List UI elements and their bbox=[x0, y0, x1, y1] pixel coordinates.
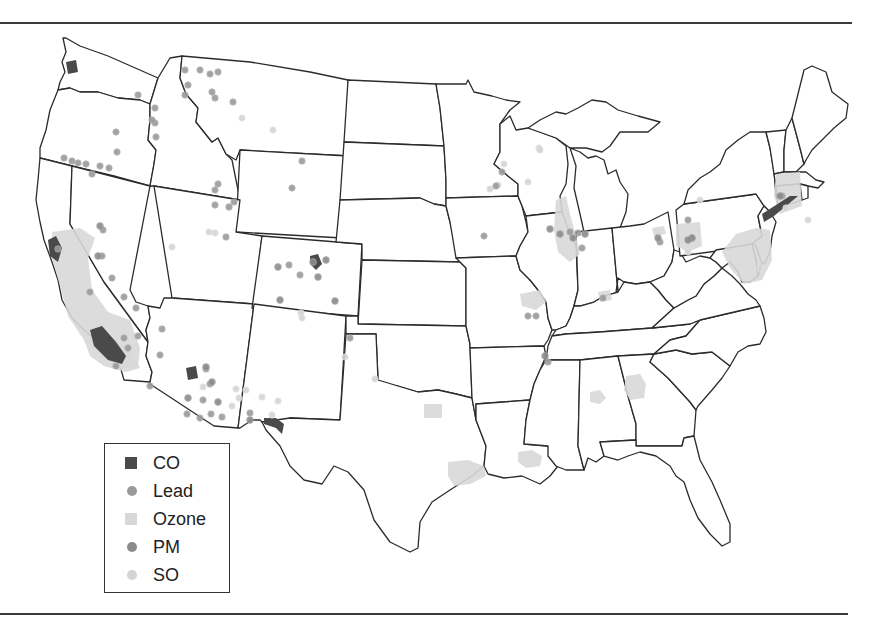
lead-point bbox=[121, 294, 127, 300]
so-point bbox=[501, 161, 507, 167]
so-point bbox=[697, 197, 703, 203]
legend-label-pm: PM bbox=[153, 537, 180, 557]
pm-point bbox=[95, 253, 102, 260]
so-point bbox=[805, 217, 811, 223]
state-iowa bbox=[446, 196, 528, 258]
so-point bbox=[259, 394, 265, 400]
so-point bbox=[212, 230, 218, 236]
pm-point bbox=[547, 226, 554, 233]
pm-point bbox=[777, 193, 784, 200]
lead-point bbox=[135, 333, 141, 339]
pm-point bbox=[203, 364, 210, 371]
so-point bbox=[525, 179, 531, 185]
so-point bbox=[243, 387, 249, 393]
lead-point bbox=[182, 67, 188, 73]
lead-point bbox=[83, 161, 89, 167]
lead-point bbox=[209, 89, 215, 95]
lead-point bbox=[299, 158, 305, 164]
state-new-mexico bbox=[238, 304, 346, 428]
lead-point bbox=[184, 411, 190, 417]
legend-label-so: SO bbox=[153, 565, 179, 585]
state-south-dakota bbox=[340, 142, 446, 206]
lead-point bbox=[207, 71, 213, 77]
lead-point bbox=[185, 82, 191, 88]
lead-point bbox=[125, 345, 131, 351]
state-maine bbox=[792, 66, 848, 164]
pm-point bbox=[542, 353, 549, 360]
lead-point bbox=[685, 217, 691, 223]
so-swatch-icon bbox=[127, 570, 137, 580]
lead-point bbox=[153, 134, 159, 140]
so-point bbox=[206, 229, 212, 235]
lead-swatch-icon bbox=[127, 486, 137, 496]
pm-point bbox=[209, 379, 216, 386]
co-area bbox=[66, 60, 78, 74]
lead-point bbox=[297, 272, 303, 278]
lead-point bbox=[106, 165, 112, 171]
lead-point bbox=[347, 335, 353, 341]
pm-point bbox=[277, 297, 284, 304]
pm-point bbox=[97, 223, 104, 230]
lead-point bbox=[89, 171, 95, 177]
lead-point bbox=[525, 313, 531, 319]
lead-point bbox=[121, 335, 127, 341]
lead-point bbox=[481, 233, 487, 239]
lead-point bbox=[499, 169, 505, 175]
lead-point bbox=[545, 359, 551, 365]
so-point bbox=[537, 147, 543, 153]
lead-point bbox=[533, 313, 539, 319]
lead-point bbox=[113, 363, 119, 369]
lead-point bbox=[493, 183, 499, 189]
pm-point bbox=[655, 235, 662, 242]
lead-point bbox=[109, 275, 115, 281]
lead-point bbox=[197, 67, 203, 73]
legend-label-ozone: Ozone bbox=[153, 509, 206, 529]
so-point bbox=[229, 403, 235, 409]
lead-point bbox=[75, 160, 81, 166]
lead-point bbox=[197, 415, 203, 421]
legend-label-co: CO bbox=[153, 453, 180, 473]
lead-point bbox=[286, 262, 292, 268]
pm-point bbox=[685, 237, 692, 244]
lead-point bbox=[133, 305, 139, 311]
lead-point bbox=[182, 92, 188, 98]
so-point bbox=[372, 376, 378, 382]
lead-point bbox=[200, 397, 206, 403]
so-point bbox=[685, 249, 691, 255]
lead-point bbox=[579, 245, 585, 251]
co-swatch-icon bbox=[125, 457, 137, 469]
state-wyoming bbox=[236, 150, 348, 238]
pm-point bbox=[570, 235, 577, 242]
lead-point bbox=[208, 411, 214, 417]
ozone-swatch-icon bbox=[125, 513, 137, 525]
so-point bbox=[169, 244, 175, 250]
state-colorado bbox=[252, 236, 362, 316]
pm-point bbox=[310, 259, 317, 266]
pm-point bbox=[323, 257, 330, 264]
so-point bbox=[299, 315, 305, 321]
so-point bbox=[342, 354, 348, 360]
lead-point bbox=[69, 158, 75, 164]
so-point bbox=[275, 398, 281, 404]
lead-point bbox=[289, 185, 295, 191]
lead-point bbox=[223, 234, 229, 240]
state-arizona bbox=[146, 298, 254, 428]
so-point bbox=[239, 115, 245, 121]
pm-point bbox=[215, 399, 222, 406]
lead-point bbox=[215, 69, 221, 75]
map-legend: CO Lead Ozone PM SO bbox=[104, 443, 230, 593]
so-point bbox=[233, 386, 239, 392]
lead-point bbox=[212, 202, 218, 208]
so-point bbox=[200, 384, 206, 390]
pm-swatch-icon bbox=[127, 542, 137, 552]
lead-point bbox=[600, 295, 606, 301]
pm-point bbox=[557, 231, 564, 238]
lead-point bbox=[159, 326, 165, 332]
lead-point bbox=[212, 95, 218, 101]
pm-point bbox=[275, 264, 282, 271]
pm-point bbox=[185, 395, 192, 402]
so-point bbox=[757, 265, 763, 271]
lead-point bbox=[113, 129, 119, 135]
state-north-dakota bbox=[344, 80, 444, 146]
pm-point bbox=[247, 417, 254, 424]
